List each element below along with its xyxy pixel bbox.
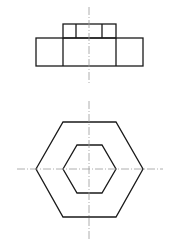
- top-view: [36, 122, 143, 217]
- front-view: [36, 24, 143, 66]
- outer-hexagon: [36, 122, 143, 217]
- front-view-base-outline: [36, 38, 143, 66]
- front-view-top-outline: [63, 24, 116, 38]
- technical-drawing: [0, 0, 174, 251]
